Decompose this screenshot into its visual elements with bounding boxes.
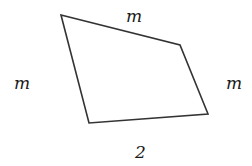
quadrilateral-shape [61,15,208,123]
quadrilateral-diagram: m m m 2 [0,0,252,166]
label-bottom-side: 2 [134,142,146,162]
label-left-side: m [14,73,30,93]
label-top-side: m [126,6,142,26]
label-right-side: m [226,73,242,93]
